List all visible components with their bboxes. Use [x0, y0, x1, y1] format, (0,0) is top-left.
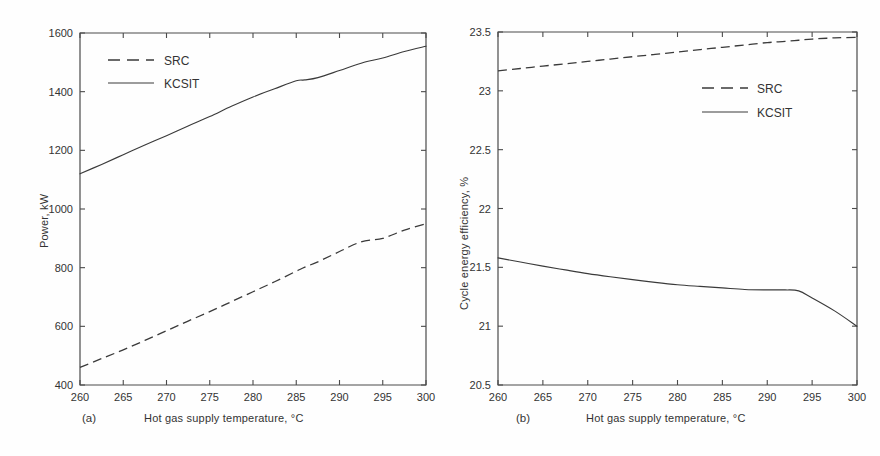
svg-text:1200: 1200 [49, 144, 73, 156]
x-tick-labels-b: 260265270275280285290295300 [489, 391, 866, 403]
svg-text:260: 260 [489, 391, 507, 403]
chart-panel-b: 260265270275280285290295300 20.52121.522… [440, 0, 880, 456]
legend-a: SRCKCSIT [108, 54, 200, 91]
svg-text:1600: 1600 [49, 27, 73, 39]
svg-text:260: 260 [71, 391, 89, 403]
svg-text:295: 295 [374, 391, 392, 403]
svg-text:285: 285 [713, 391, 731, 403]
figure-container: 260265270275280285290295300 400600800100… [0, 0, 880, 456]
y-tick-labels-b: 20.52121.52222.52323.5 [470, 26, 491, 391]
series-line-src-b [498, 37, 857, 71]
svg-text:1400: 1400 [49, 86, 73, 98]
svg-text:22.5: 22.5 [470, 144, 491, 156]
tick-marks-a [80, 33, 426, 385]
x-axis-label-b: Hot gas supply temperature, °C [586, 412, 746, 424]
series-line-kcsit-b [498, 258, 857, 326]
svg-text:275: 275 [623, 391, 641, 403]
y-axis-label-b: Cycle energy efficiency, % [458, 177, 470, 310]
svg-text:300: 300 [417, 391, 435, 403]
svg-text:1000: 1000 [49, 203, 73, 215]
svg-text:295: 295 [803, 391, 821, 403]
plot-svg-a: 260265270275280285290295300 400600800100… [0, 0, 440, 456]
svg-text:KCSIT: KCSIT [164, 77, 200, 91]
svg-text:600: 600 [55, 320, 73, 332]
svg-text:23: 23 [479, 85, 491, 97]
svg-text:SRC: SRC [164, 54, 190, 68]
svg-text:400: 400 [55, 379, 73, 391]
svg-text:800: 800 [55, 262, 73, 274]
tick-marks-b [498, 32, 857, 385]
svg-text:280: 280 [244, 391, 262, 403]
series-line-src-a [80, 224, 426, 368]
legend-b: SRCKCSIT [702, 82, 793, 120]
svg-text:KCSIT: KCSIT [757, 106, 793, 120]
svg-text:270: 270 [579, 391, 597, 403]
svg-text:21: 21 [479, 320, 491, 332]
series-line-kcsit-a [80, 46, 426, 174]
svg-text:23.5: 23.5 [470, 26, 491, 38]
svg-text:290: 290 [330, 391, 348, 403]
svg-text:265: 265 [114, 391, 132, 403]
svg-text:265: 265 [534, 391, 552, 403]
svg-text:290: 290 [758, 391, 776, 403]
svg-text:270: 270 [157, 391, 175, 403]
svg-text:285: 285 [287, 391, 305, 403]
svg-text:20.5: 20.5 [470, 379, 491, 391]
svg-text:275: 275 [201, 391, 219, 403]
chart-panel-a: 260265270275280285290295300 400600800100… [0, 0, 440, 456]
svg-text:22: 22 [479, 203, 491, 215]
y-tick-labels-a: 4006008001000120014001600 [49, 27, 73, 391]
axis-frame-b [498, 32, 857, 385]
panel-tag-b: (b) [516, 412, 530, 424]
svg-text:300: 300 [848, 391, 866, 403]
y-axis-label-a: Power, kW [38, 194, 50, 248]
x-tick-labels-a: 260265270275280285290295300 [71, 391, 435, 403]
plot-svg-b: 260265270275280285290295300 20.52121.522… [440, 0, 880, 456]
svg-text:21.5: 21.5 [470, 261, 491, 273]
axis-frame-a [80, 33, 426, 385]
svg-text:280: 280 [668, 391, 686, 403]
x-axis-label-a: Hot gas supply temperature, °C [144, 412, 304, 424]
svg-text:SRC: SRC [757, 82, 783, 96]
panel-tag-a: (a) [82, 412, 96, 424]
